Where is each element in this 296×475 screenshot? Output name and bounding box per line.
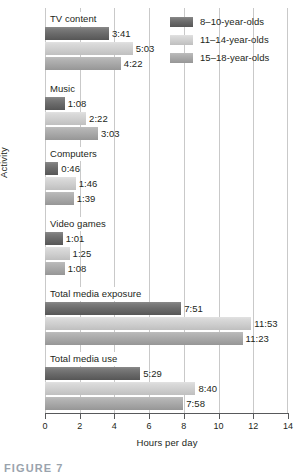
bar[interactable] <box>45 302 181 315</box>
bar-value-label: 2:22 <box>86 112 108 125</box>
bar-row: 5:29 <box>45 366 288 381</box>
bar[interactable] <box>45 397 183 410</box>
bar-value-label: 5:03 <box>133 42 155 55</box>
bar-row: 1:08 <box>45 96 288 111</box>
bar-group-label: Music <box>46 82 80 96</box>
bar-value-label: 8:40 <box>195 382 217 395</box>
legend: 8–10-year-olds11–14-year-olds15–18-year-… <box>170 16 269 70</box>
bar[interactable] <box>45 127 98 140</box>
bar-value-label: 3:41 <box>109 27 131 40</box>
figure-caption: FIGURE 7 <box>4 462 64 475</box>
bar[interactable] <box>45 57 121 70</box>
x-axis-tick-label: 4 <box>102 421 126 431</box>
bar[interactable] <box>45 42 133 55</box>
bar-value-label: 1:25 <box>70 247 92 260</box>
bar-group-bars: 5:298:407:58 <box>45 366 288 411</box>
bar-group-label: Video games <box>46 217 111 231</box>
bar[interactable] <box>45 332 243 345</box>
bar[interactable] <box>45 192 74 205</box>
bar-row: 3:03 <box>45 126 288 141</box>
legend-item-label: 15–18-year-olds <box>200 52 269 63</box>
bar-group-bars: 1:011:251:08 <box>45 231 288 276</box>
legend-item[interactable]: 15–18-year-olds <box>170 52 269 63</box>
bar-value-label: 4:22 <box>121 57 143 70</box>
bar[interactable] <box>45 232 63 245</box>
x-axis-tick-label: 8 <box>172 421 196 431</box>
bar-value-label: 7:58 <box>183 397 205 410</box>
bar-value-label: 11:53 <box>251 317 277 330</box>
bar-row: 8:40 <box>45 381 288 396</box>
x-axis-tick <box>45 414 46 419</box>
bar[interactable] <box>45 247 70 260</box>
x-axis-tick <box>288 414 289 419</box>
bar-value-label: 1:08 <box>65 262 87 275</box>
legend-item-label: 8–10-year-olds <box>200 16 264 27</box>
bar-row: 1:25 <box>45 246 288 261</box>
x-axis-tick <box>114 414 115 419</box>
bar-value-label: 1:01 <box>63 232 85 245</box>
bar[interactable] <box>45 27 109 40</box>
bar[interactable] <box>45 177 76 190</box>
x-axis-tick-label: 14 <box>276 421 296 431</box>
x-axis-tick-label: 2 <box>68 421 92 431</box>
bar[interactable] <box>45 382 195 395</box>
x-axis-tick <box>253 414 254 419</box>
bar[interactable] <box>45 317 251 330</box>
bar[interactable] <box>45 97 65 110</box>
bar-row: 1:39 <box>45 191 288 206</box>
bar-group-label: Total media use <box>46 352 122 366</box>
bar-row: 0:46 <box>45 161 288 176</box>
legend-item[interactable]: 8–10-year-olds <box>170 16 269 27</box>
bar-group-label: Total media exposure <box>46 287 146 301</box>
bar-value-label: 1:39 <box>74 192 96 205</box>
bar[interactable] <box>45 112 86 125</box>
bar-group-label: Computers <box>46 147 102 161</box>
bar-row: 1:46 <box>45 176 288 191</box>
bar[interactable] <box>45 162 58 175</box>
bar-group-bars: 0:461:461:39 <box>45 161 288 206</box>
legend-item-label: 11–14-year-olds <box>200 34 269 45</box>
x-axis-tick <box>219 414 220 419</box>
bar-row: 1:08 <box>45 261 288 276</box>
bar-row: 7:58 <box>45 396 288 411</box>
bar-value-label: 5:29 <box>140 367 162 380</box>
bar-value-label: 0:46 <box>58 162 80 175</box>
bar-value-label: 3:03 <box>98 127 120 140</box>
legend-swatch-icon <box>170 35 193 45</box>
x-axis-title: Hours per day <box>45 437 289 448</box>
bar-value-label: 11:23 <box>243 332 269 345</box>
legend-item[interactable]: 11–14-year-olds <box>170 34 269 45</box>
bar-value-label: 7:51 <box>181 302 203 315</box>
legend-swatch-icon <box>170 53 193 63</box>
x-axis-tick-label: 0 <box>33 421 57 431</box>
bar-value-label: 1:08 <box>65 97 87 110</box>
x-axis-tick <box>184 414 185 419</box>
bar[interactable] <box>45 262 65 275</box>
bar-group-label: TV content <box>46 12 101 26</box>
bar-group-bars: 1:082:223:03 <box>45 96 288 141</box>
figure-container: TV content3:415:034:22Music1:082:223:03C… <box>0 0 296 475</box>
x-axis-tick <box>80 414 81 419</box>
y-axis-title: Activity <box>0 147 9 178</box>
x-axis-tick-label: 6 <box>137 421 161 431</box>
bar-row: 11:23 <box>45 331 288 346</box>
bar-group-bars: 7:5111:5311:23 <box>45 301 288 346</box>
x-axis-tick-label: 12 <box>241 421 265 431</box>
legend-swatch-icon <box>170 17 193 27</box>
bar-row: 11:53 <box>45 316 288 331</box>
x-axis-tick <box>149 414 150 419</box>
bar-row: 2:22 <box>45 111 288 126</box>
bar-row: 1:01 <box>45 231 288 246</box>
bar-row: 7:51 <box>45 301 288 316</box>
x-axis-tick-label: 10 <box>207 421 231 431</box>
bar-value-label: 1:46 <box>76 177 98 190</box>
bar[interactable] <box>45 367 140 380</box>
